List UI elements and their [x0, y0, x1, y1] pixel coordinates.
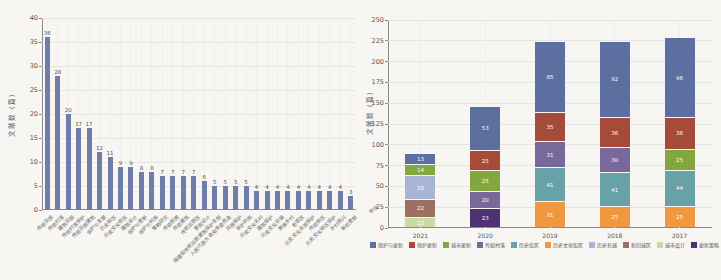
legend-label: 历史文化街区 [553, 241, 583, 248]
segment-value-label: 25 [482, 158, 489, 164]
legend-swatch [657, 242, 663, 248]
y-tick-label: 30 [22, 62, 38, 70]
bar [118, 167, 123, 210]
segment-value-label: 25 [676, 214, 683, 220]
bar [317, 191, 322, 210]
segment-value-label: 85 [547, 74, 554, 80]
bar [223, 186, 228, 210]
bar [149, 172, 154, 210]
stack-segment: 31 [535, 202, 565, 227]
y-tick-mark [39, 42, 42, 43]
bar [327, 191, 332, 210]
gridline-v [340, 18, 341, 210]
y-tick-label: 0 [368, 224, 384, 232]
bar [296, 191, 301, 210]
segment-value-label: 96 [676, 75, 683, 81]
y-tick-label: 35 [22, 38, 38, 46]
gridline-v [319, 18, 320, 210]
y-tick-mark [39, 114, 42, 115]
gridline-v [277, 18, 278, 210]
stack-segment: 38 [665, 118, 695, 149]
y-tick-mark [385, 228, 388, 229]
y-tick-label: 250 [368, 16, 384, 24]
bibliometric-charts: 文献数（篇） 051015202530354036传统风貌28传统村落20建筑风… [0, 0, 721, 280]
bar [76, 128, 81, 210]
bar [128, 167, 133, 210]
legend-label: 保护与更新 [378, 241, 403, 248]
y-tick-label: 150 [368, 99, 384, 107]
stack-segment: 12 [405, 218, 435, 227]
gridline-v [308, 18, 309, 210]
y-tick-mark [39, 138, 42, 139]
y-tick-mark [385, 20, 388, 21]
segment-value-label: 28 [417, 185, 424, 191]
y-tick-mark [385, 186, 388, 187]
stack-segment: 30 [600, 148, 630, 172]
stack-segment: 13 [405, 154, 435, 164]
gridline-v [298, 18, 299, 210]
segment-value-label: 92 [611, 76, 618, 82]
gridline-v [350, 18, 351, 210]
left-y-axis-label: 文献数（篇） [6, 97, 16, 137]
bar-value-label: 11 [102, 150, 118, 156]
legend: 保护与更新保护更新城市更新传统村落历史街区历史文化街区历史名城新旧城区城市设计更… [370, 241, 719, 248]
y-tick-label: 15 [22, 134, 38, 142]
bar [285, 191, 290, 210]
bar [45, 37, 50, 210]
legend-label: 新旧城区 [631, 241, 651, 248]
y-tick-mark [385, 165, 388, 166]
legend-label: 城市设计 [665, 241, 685, 248]
y-tick-label: 100 [368, 141, 384, 149]
legend-item: 历史名城 [589, 241, 617, 248]
segment-value-label: 44 [676, 185, 683, 191]
bar [66, 114, 71, 210]
stack-segment: 28 [405, 176, 435, 198]
bar [191, 176, 196, 210]
bar [97, 152, 102, 210]
gridline-v [329, 18, 330, 210]
bar-value-label: 28 [50, 69, 66, 75]
legend-item: 历史街区 [511, 241, 539, 248]
legend-item: 更新策略 [691, 241, 719, 248]
x-tick-label: 2020 [470, 232, 500, 239]
segment-value-label: 25 [482, 178, 489, 184]
y-tick-mark [385, 61, 388, 62]
y-tick-mark [39, 18, 42, 19]
legend-swatch [443, 242, 449, 248]
segment-value-label: 41 [611, 187, 618, 193]
legend-item: 保护与更新 [370, 241, 403, 248]
stack-segment: 20 [470, 192, 500, 208]
bar [348, 196, 353, 210]
stack-segment: 41 [535, 168, 565, 201]
y-tick-label: 125 [368, 120, 384, 128]
segment-value-label: 22 [417, 205, 424, 211]
y-tick-label: 40 [22, 14, 38, 22]
legend-label: 更新策略 [699, 241, 719, 248]
stack-segment: 25 [665, 150, 695, 170]
legend-label: 保护更新 [417, 241, 437, 248]
legend-swatch [409, 242, 415, 248]
stack-segment: 14 [405, 165, 435, 176]
legend-label: 历史街区 [519, 241, 539, 248]
gridline-v [287, 18, 288, 210]
legend-item: 新旧城区 [623, 241, 651, 248]
gridline-v [256, 18, 257, 210]
stack-segment: 31 [535, 142, 565, 167]
y-tick-label: 10 [22, 158, 38, 166]
segment-value-label: 25 [611, 214, 618, 220]
stack-segment: 44 [665, 171, 695, 207]
bar [170, 176, 175, 210]
stack-segment: 35 [535, 113, 565, 141]
stack-segment: 41 [600, 173, 630, 206]
bar [139, 172, 144, 210]
stack-segment: 25 [600, 207, 630, 227]
y-tick-label: 0 [22, 206, 38, 214]
segment-value-label: 53 [482, 125, 489, 131]
x-tick-label: 2021 [405, 232, 435, 239]
segment-value-label: 20 [482, 197, 489, 203]
y-tick-label: 25 [22, 86, 38, 94]
stack-segment: 53 [470, 107, 500, 150]
y-tick-mark [39, 186, 42, 187]
y-tick-mark [39, 66, 42, 67]
bar [202, 181, 207, 210]
